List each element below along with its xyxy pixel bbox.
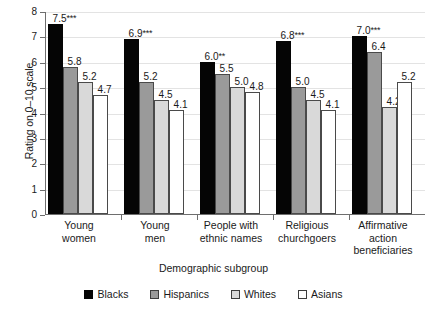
bar-asians-4 xyxy=(321,110,336,214)
bar-value-label: 6.8*** xyxy=(281,30,305,42)
chart-legend: BlacksHispanicsWhitesAsians xyxy=(0,288,427,300)
y-axis-tick-label: 1 xyxy=(17,185,37,195)
category-label-line: action xyxy=(345,232,421,245)
bar-value-label: 5.8 xyxy=(68,56,82,67)
category-label-line: Religious xyxy=(269,219,345,232)
category-label-line: Young xyxy=(41,219,117,232)
bar-chart-figure: Rating on 0–10 scale 0123456787.5***5.85… xyxy=(0,0,427,312)
category-label-line: Young xyxy=(117,219,193,232)
x-axis-category-label: People withethnic names xyxy=(193,219,269,244)
y-axis-tick-label: 5 xyxy=(17,83,37,93)
y-axis-tick xyxy=(40,37,45,38)
x-axis-category-label: Religiouschurchgoers xyxy=(269,219,345,244)
bar-asians-3 xyxy=(245,92,260,214)
bar-blacks-3 xyxy=(200,62,215,214)
y-axis-tick xyxy=(40,12,45,13)
bar-value-label: 5.2 xyxy=(402,71,416,82)
bar-hispanics-3 xyxy=(215,74,230,214)
bar-value-label: 4.5 xyxy=(311,89,325,100)
category-label-line: men xyxy=(117,232,193,245)
x-axis-category-label: Youngwomen xyxy=(41,219,117,244)
plot-area: 0123456787.5***5.85.24.76.9***5.24.54.16… xyxy=(45,12,425,215)
y-axis-tick-label: 8 xyxy=(17,7,37,17)
bar-value-label: 7.5*** xyxy=(53,13,77,25)
y-axis-tick xyxy=(40,63,45,64)
bar-whites-4 xyxy=(306,100,321,214)
category-label-line: ethnic names xyxy=(193,232,269,245)
legend-item-blacks: Blacks xyxy=(84,288,128,300)
y-axis-tick-label: 2 xyxy=(17,159,37,169)
category-label-line: churchgoers xyxy=(269,232,345,245)
y-axis-tick-label: 7 xyxy=(17,32,37,42)
y-axis-tick-label: 0 xyxy=(17,210,37,220)
bar-hispanics-1 xyxy=(63,67,78,214)
bar-asians-5 xyxy=(397,82,412,214)
gridline xyxy=(46,12,425,13)
legend-item-whites: Whites xyxy=(231,288,276,300)
bar-value-label: 5.2 xyxy=(83,71,97,82)
bar-whites-5 xyxy=(382,107,397,214)
bar-value-label: 7.0*** xyxy=(357,25,381,37)
category-label-line: beneficiaries xyxy=(345,244,421,257)
y-axis-tick-label: 4 xyxy=(17,109,37,119)
y-axis-tick xyxy=(40,164,45,165)
y-axis-tick xyxy=(40,190,45,191)
legend-label: Blacks xyxy=(97,288,128,300)
bar-value-label: 4.5 xyxy=(159,89,173,100)
legend-label: Whites xyxy=(244,288,276,300)
bar-hispanics-4 xyxy=(291,87,306,214)
legend-label: Hispanics xyxy=(163,288,209,300)
bar-asians-2 xyxy=(169,110,184,214)
legend-swatch-asians xyxy=(298,290,307,299)
bar-blacks-1 xyxy=(48,24,63,214)
bar-value-label: 4.7 xyxy=(98,84,112,95)
bar-value-label: 6.0** xyxy=(205,51,226,63)
bar-value-label: 5.0 xyxy=(235,76,249,87)
bar-hispanics-5 xyxy=(367,52,382,214)
x-axis-title: Demographic subgroup xyxy=(0,262,427,274)
bar-blacks-2 xyxy=(124,39,139,214)
bar-value-label: 4.1 xyxy=(326,99,340,110)
category-label-line: women xyxy=(41,232,117,245)
bar-value-label: 4.1 xyxy=(174,99,188,110)
bar-whites-3 xyxy=(230,87,245,214)
bar-blacks-4 xyxy=(276,41,291,214)
y-axis-tick xyxy=(40,88,45,89)
bar-asians-1 xyxy=(93,95,108,214)
x-axis-category-label: Youngmen xyxy=(117,219,193,244)
y-axis-tick xyxy=(40,114,45,115)
category-label-line: People with xyxy=(193,219,269,232)
y-axis-tick-label: 3 xyxy=(17,134,37,144)
bar-blacks-5 xyxy=(352,36,367,214)
bar-value-label: 5.0 xyxy=(296,76,310,87)
bar-value-label: 5.5 xyxy=(220,63,234,74)
y-axis-tick-label: 6 xyxy=(17,58,37,68)
legend-swatch-hispanics xyxy=(150,290,159,299)
bar-whites-2 xyxy=(154,100,169,214)
category-label-line: Affirmative xyxy=(345,219,421,232)
legend-item-asians: Asians xyxy=(298,288,343,300)
bar-value-label: 6.4 xyxy=(372,41,386,52)
legend-swatch-blacks xyxy=(84,290,93,299)
bar-whites-1 xyxy=(78,82,93,214)
legend-item-hispanics: Hispanics xyxy=(150,288,209,300)
bar-value-label: 4.8 xyxy=(250,81,264,92)
x-axis-line xyxy=(45,214,425,215)
legend-label: Asians xyxy=(311,288,343,300)
y-axis-tick xyxy=(40,215,45,216)
bar-hispanics-2 xyxy=(139,82,154,214)
bar-value-label: 6.9*** xyxy=(129,28,153,40)
bar-value-label: 5.2 xyxy=(144,71,158,82)
y-axis-tick xyxy=(40,139,45,140)
gridline xyxy=(46,37,425,38)
legend-swatch-whites xyxy=(231,290,240,299)
x-axis-category-label: Affirmativeactionbeneficiaries xyxy=(345,219,421,257)
